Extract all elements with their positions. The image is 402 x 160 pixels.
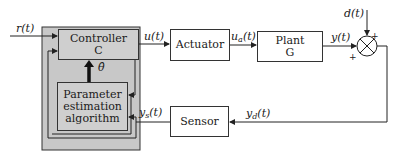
signal-yd: yd(t) — [246, 108, 270, 123]
signal-ua: ua(t) — [231, 31, 256, 46]
controller-symbol: C — [94, 45, 102, 57]
param-label-2: estimation — [63, 101, 122, 113]
plant-symbol: G — [286, 47, 295, 59]
ua-tail: (t) — [243, 30, 256, 43]
controller-label: Controller — [70, 33, 127, 45]
parameter-estimation-block: Parameter estimation algorithm — [57, 82, 128, 131]
signal-u: u(t) — [144, 31, 164, 43]
ys-tail: (t) — [149, 106, 162, 119]
plus-sign-left: + — [349, 51, 357, 63]
sensor-label: Sensor — [180, 116, 219, 128]
plant-block: Plant G — [257, 31, 323, 62]
signal-theta-hat: θ̂ — [98, 62, 105, 74]
actuator-block: Actuator — [170, 29, 230, 61]
signal-ys: ys(t) — [139, 107, 162, 122]
param-label-1: Parameter — [63, 89, 121, 101]
sensor-block: Sensor — [170, 106, 229, 137]
signal-r: r(t) — [16, 23, 34, 35]
controller-block: Controller C — [58, 29, 139, 60]
actuator-label: Actuator — [176, 39, 224, 51]
signal-d: d(t) — [344, 8, 364, 20]
param-label-3: algorithm — [65, 113, 119, 125]
plus-sign-top: + — [371, 30, 379, 42]
signal-y: y(t) — [331, 32, 350, 44]
yd-tail: (t) — [257, 107, 270, 120]
plant-label: Plant — [276, 35, 305, 47]
